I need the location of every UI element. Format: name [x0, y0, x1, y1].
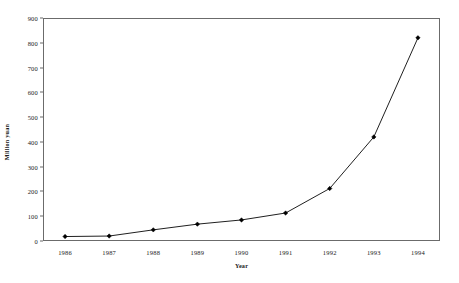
y-tick-mark [40, 92, 43, 93]
y-tick-label: 0 [35, 238, 38, 245]
y-tick-label: 900 [28, 15, 38, 22]
x-tick-label: 1987 [102, 249, 116, 256]
y-tick-mark [40, 166, 43, 167]
y-tick-mark [40, 191, 43, 192]
y-tick-mark [40, 18, 43, 19]
x-axis-title: Year [43, 262, 440, 269]
y-tick-label: 400 [28, 138, 38, 145]
y-tick-mark [40, 141, 43, 142]
y-tick-mark [40, 216, 43, 217]
x-tick-label: 1993 [367, 249, 381, 256]
y-tick-label: 800 [28, 39, 38, 46]
y-tick-label: 700 [28, 64, 38, 71]
y-tick-label: 100 [28, 213, 38, 220]
y-tick-label: 500 [28, 114, 38, 121]
y-tick-mark [40, 42, 43, 43]
plot-area [43, 18, 440, 241]
x-axis: 198619871988198919901991199219931994 [43, 241, 440, 261]
y-axis-title: Million yuan [3, 123, 10, 159]
y-tick-label: 300 [28, 163, 38, 170]
y-tick-mark [40, 67, 43, 68]
x-tick-label: 1990 [235, 249, 249, 256]
x-tick-label: 1989 [190, 249, 204, 256]
x-tick-label: 1992 [323, 249, 337, 256]
y-tick-label: 200 [28, 188, 38, 195]
x-tick-label: 1991 [279, 249, 293, 256]
x-tick-label: 1994 [411, 249, 425, 256]
x-tick-label: 1988 [146, 249, 160, 256]
y-tick-label: 600 [28, 89, 38, 96]
x-tick-label: 1986 [58, 249, 72, 256]
y-tick-mark [40, 117, 43, 118]
line-chart-figure: 0100200300400500600700800900 Million yua… [0, 0, 459, 283]
